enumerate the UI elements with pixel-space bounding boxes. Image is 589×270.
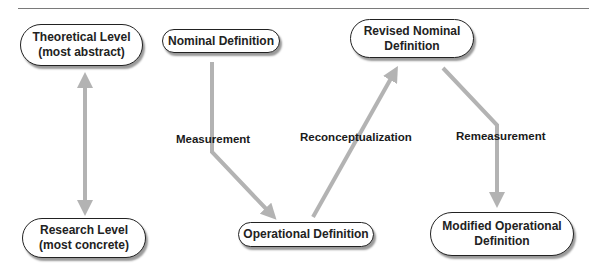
theoretical-level-node: Theoretical Level (most abstract) (20, 24, 143, 66)
revised-nominal-definition-node: Revised Nominal Definition (350, 19, 474, 58)
modified-operational-definition-node: Modified Operational Definition (430, 212, 574, 256)
research-level-node: Research Level (most concrete) (22, 218, 146, 258)
measurement-label: Measurement (176, 133, 250, 145)
reconceptualization-arrow (313, 73, 394, 217)
remeasurement-label: Remeasurement (456, 130, 545, 142)
reconceptualization-label: Reconceptualization (300, 131, 412, 143)
operational-definition-node: Operational Definition (238, 222, 374, 247)
nominal-definition-node: Nominal Definition (162, 29, 280, 53)
